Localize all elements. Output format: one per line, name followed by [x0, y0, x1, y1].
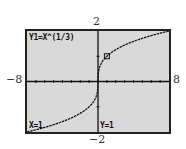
equation-label: Y1=X^(1/3): [29, 34, 74, 42]
graph-plot: [27, 31, 169, 132]
xmin-label: −8: [6, 74, 22, 85]
calculator-screen: Y1=X^(1/3) X=1 Y=1: [25, 29, 171, 134]
ymax-label: 2: [93, 16, 100, 27]
ymin-label: −2: [89, 134, 105, 145]
xmax-label: 8: [173, 74, 180, 85]
trace-y-readout: Y=1: [100, 122, 114, 130]
trace-x-readout: X=1: [29, 122, 43, 130]
